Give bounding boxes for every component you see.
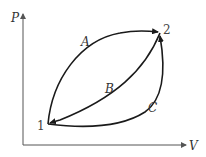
path-a-curve bbox=[48, 31, 158, 124]
path-c-label: C bbox=[148, 101, 157, 115]
y-axis-label: P bbox=[10, 11, 20, 25]
path-a-label: A bbox=[80, 35, 90, 49]
path-b-label: B bbox=[104, 82, 114, 96]
state-1-label: 1 bbox=[37, 119, 45, 133]
pv-diagram: P V A B C 1 2 bbox=[0, 0, 206, 157]
state-2-label: 2 bbox=[163, 23, 171, 37]
path-b-curve bbox=[50, 33, 160, 123]
x-axis-label: V bbox=[189, 139, 199, 153]
